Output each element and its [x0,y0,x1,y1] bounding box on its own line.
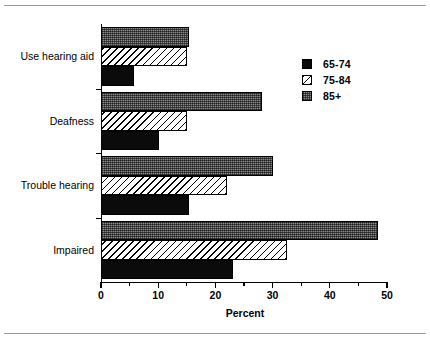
legend-label-65-74: 65-74 [323,58,351,70]
legend-item-85plus: 85+ [302,89,398,103]
bar-65-74-impaired [101,260,233,280]
y-tick-label-impaired: Impaired [53,244,94,256]
bar-85plus-trouble-hearing [101,156,273,176]
bar-75-84-deafness [101,111,187,131]
bar-75-84-trouble-hearing [101,176,227,196]
bar-65-74-trouble-hearing [101,195,189,215]
x-minor-tick-15 [186,282,187,286]
legend-swatch-65-74 [302,59,312,69]
bar-65-74-deafness [101,131,159,151]
x-minor-tick-5 [129,282,130,286]
bar-75-84-use-hearing-aid [101,47,187,67]
y-axis-labels: Use hearing aidDeafnessTrouble hearingIm… [0,0,94,341]
x-minor-tick-35 [301,282,302,286]
x-tick-label-40: 40 [324,289,336,301]
legend-item-65-74: 65-74 [302,57,398,71]
legend-label-85plus: 85+ [323,90,341,102]
legend-item-75-84: 75-84 [302,73,398,87]
figure-canvas: 01020304050 Use hearing aidDeafnessTroub… [0,0,430,341]
y-tick-1 [96,89,102,90]
y-tick-label-use-hearing-aid: Use hearing aid [20,50,94,62]
x-tick-label-20: 20 [210,289,222,301]
legend-swatch-75-84 [302,75,312,85]
x-tick-30 [272,282,273,288]
x-tick-label-0: 0 [98,289,104,301]
x-minor-tick-25 [243,282,244,286]
y-tick-3 [96,218,102,219]
x-tick-0 [100,282,101,288]
x-tick-10 [158,282,159,288]
legend: 65-7475-8485+ [302,57,398,105]
bar-75-84-impaired [101,240,287,260]
x-tick-40 [329,282,330,288]
legend-swatch-85plus [302,91,312,101]
x-tick-label-50: 50 [381,289,393,301]
y-tick-2 [96,153,102,154]
y-tick-label-deafness: Deafness [50,115,94,127]
bar-65-74-use-hearing-aid [101,66,134,86]
bar-85plus-use-hearing-aid [101,27,189,47]
x-axis-title: Percent [226,307,265,319]
legend-label-75-84: 75-84 [323,74,351,86]
x-tick-20 [215,282,216,288]
x-tick-50 [386,282,387,288]
bar-85plus-impaired [101,221,378,241]
x-tick-label-10: 10 [152,289,164,301]
bar-85plus-deafness [101,92,262,112]
x-tick-label-30: 30 [267,289,279,301]
y-tick-label-trouble-hearing: Trouble hearing [21,179,94,191]
x-minor-tick-45 [358,282,359,286]
